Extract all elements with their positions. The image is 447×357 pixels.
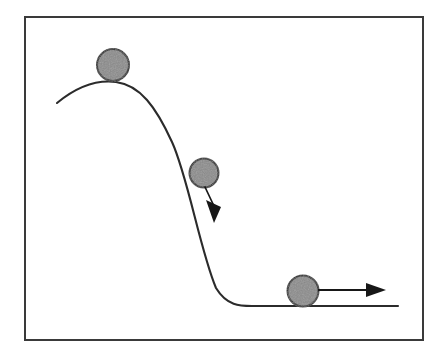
figure-background (0, 0, 447, 357)
ball-bottom (288, 276, 319, 307)
ball-middle (190, 159, 219, 188)
ball-top (97, 49, 129, 81)
diagram-canvas (0, 0, 447, 357)
figure-container: A line diagram showing a gray ball at th… (0, 0, 447, 357)
